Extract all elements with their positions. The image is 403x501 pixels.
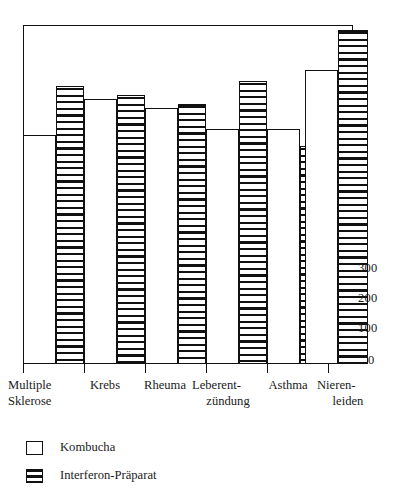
- category-label-rheuma: Rheuma: [134, 378, 196, 394]
- category-label-leberentzuendung: Leberent- zündung: [192, 378, 264, 409]
- bar-chart: 300 200 100 0 Multiple Sklerose Krebs Rh…: [0, 0, 403, 501]
- bar-kombucha-0: [23, 135, 56, 364]
- legend-label-kombucha: Kombucha: [60, 440, 115, 455]
- y-tick-label-300: 300: [358, 261, 378, 276]
- y-tick-label-0: 0: [368, 353, 375, 368]
- category-label-line1: Leberent-: [192, 378, 241, 392]
- bar-kombucha-4: [267, 129, 300, 364]
- category-label-line1: Multiple: [8, 378, 51, 392]
- axis-tick-2: [145, 364, 146, 373]
- category-label-line2: Sklerose: [8, 394, 98, 410]
- legend-item-interferon: Interferon-Präparat: [26, 465, 157, 486]
- bar-kombucha-1: [84, 99, 117, 364]
- axis-tick-0: [23, 364, 24, 373]
- bars-layer: [23, 25, 353, 364]
- category-label-line1: Krebs: [90, 378, 120, 392]
- bar-interferon-0: [56, 86, 84, 364]
- category-label-line2: leiden: [317, 394, 379, 410]
- bar-interferon-3: [239, 81, 267, 364]
- category-label-line1: Nieren-: [317, 378, 355, 392]
- category-label-nierenleiden: Nieren- leiden: [317, 378, 379, 409]
- axis-tick-4: [267, 364, 268, 373]
- category-label-asthma: Asthma: [258, 378, 318, 394]
- bar-interferon-2: [178, 104, 206, 364]
- y-tick-label-200: 200: [358, 291, 378, 306]
- bar-interferon-1: [117, 95, 145, 364]
- axis-tick-1: [84, 364, 85, 373]
- category-label-line1: Asthma: [268, 378, 307, 392]
- legend: Kombucha Interferon-Präparat: [26, 437, 157, 493]
- bar-kombucha-3: [206, 129, 239, 364]
- category-label-line2: zündung: [192, 394, 264, 410]
- legend-swatch-kombucha-icon: [26, 441, 43, 455]
- axis-tick-3: [206, 364, 207, 373]
- legend-item-kombucha: Kombucha: [26, 437, 157, 458]
- category-labels: Multiple Sklerose Krebs Rheuma Leberent-…: [0, 378, 403, 428]
- legend-label-interferon: Interferon-Präparat: [60, 468, 157, 483]
- y-tick-label-100: 100: [358, 321, 378, 336]
- bar-kombucha-2: [145, 108, 178, 364]
- legend-swatch-interferon-icon: [26, 469, 43, 483]
- category-label-krebs: Krebs: [75, 378, 135, 394]
- axis-tick-5: [328, 364, 329, 373]
- category-label-line1: Rheuma: [144, 378, 186, 392]
- x-axis: [23, 363, 353, 364]
- bar-kombucha-5: [305, 70, 338, 364]
